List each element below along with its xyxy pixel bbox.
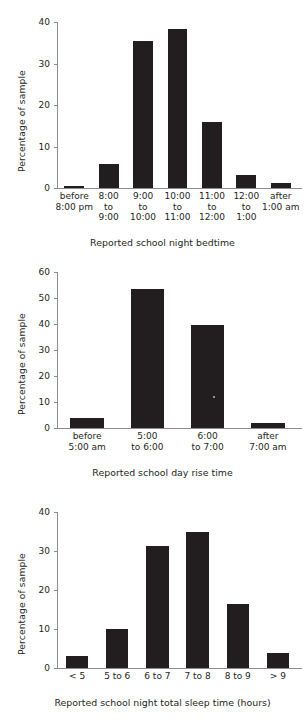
x-axis-title: Reported school night total sleep time (… — [0, 697, 308, 708]
bar — [133, 41, 153, 188]
y-tick-label: 40 — [28, 508, 50, 517]
bars-group — [57, 22, 298, 188]
x-axis-title: Reported school day rise time — [0, 467, 308, 478]
y-axis-title: Percentage of sample — [16, 70, 27, 172]
y-tick-label: 40 — [28, 18, 50, 27]
bar — [271, 183, 291, 188]
x-tick-label: after 1:00 am — [256, 191, 306, 212]
y-tick-label: 30 — [28, 59, 50, 68]
y-tick-label: 20 — [28, 586, 50, 595]
bar — [186, 532, 208, 669]
bar — [168, 29, 188, 188]
y-tick-label: 60 — [28, 268, 50, 277]
bar — [66, 656, 88, 668]
figure-sleep-survey-panels: 010203040Percentage of samplebefore 8:00… — [0, 0, 308, 728]
x-tick-label: after 7:00 am — [224, 431, 308, 452]
y-tick-mark — [54, 668, 57, 669]
y-axis-title: Percentage of sample — [16, 313, 27, 415]
y-tick-label: 0 — [28, 184, 50, 193]
x-axis-line — [57, 188, 302, 189]
x-axis-line — [57, 668, 302, 669]
y-tick-label: 10 — [28, 142, 50, 151]
bar — [236, 175, 256, 188]
y-tick-label: 20 — [28, 372, 50, 381]
bar — [202, 122, 222, 188]
bar — [251, 423, 285, 428]
y-tick-label: 20 — [28, 101, 50, 110]
scan-artifact-speck — [213, 396, 215, 398]
x-tick-label: > 9 — [249, 671, 307, 682]
x-axis-title: Reported school night bedtime — [0, 237, 308, 248]
y-tick-label: 30 — [28, 346, 50, 355]
x-axis-line — [57, 428, 302, 429]
bar — [146, 546, 168, 668]
bar — [131, 289, 165, 428]
bar — [191, 325, 225, 428]
bar — [64, 186, 84, 188]
bar — [227, 604, 249, 668]
y-tick-label: 30 — [28, 547, 50, 556]
bars-group — [57, 512, 298, 668]
y-tick-label: 0 — [28, 664, 50, 673]
bar — [99, 164, 119, 188]
y-tick-label: 10 — [28, 398, 50, 407]
y-tick-label: 50 — [28, 294, 50, 303]
bar — [106, 629, 128, 668]
y-tick-mark — [54, 188, 57, 189]
y-tick-mark — [54, 428, 57, 429]
y-tick-label: 10 — [28, 625, 50, 634]
bar — [267, 653, 289, 668]
y-tick-label: 40 — [28, 320, 50, 329]
bar — [70, 418, 104, 428]
y-axis-title: Percentage of sample — [16, 553, 27, 655]
bars-group — [57, 272, 298, 428]
